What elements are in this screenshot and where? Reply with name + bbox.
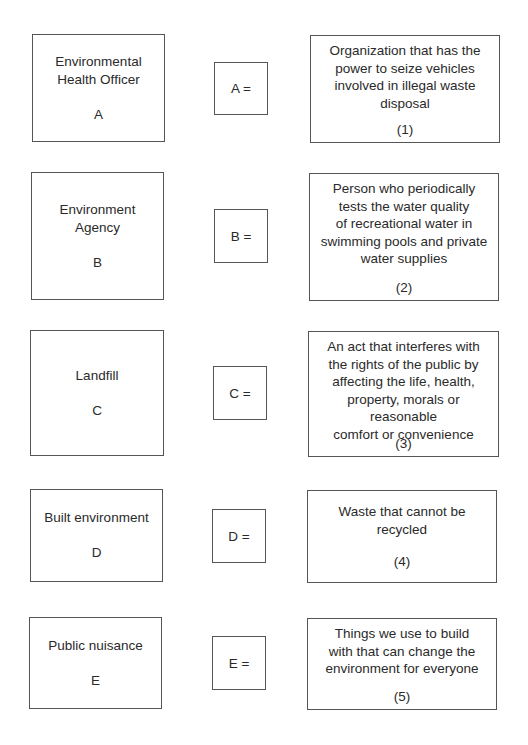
definition-line: An act that interferes with: [313, 338, 494, 356]
term-label: Environmental Health Officer: [55, 53, 141, 89]
term-line: Landfill: [76, 367, 119, 385]
definition-text: An act that interferes with the rights o…: [309, 338, 498, 443]
definition-card-2: Person who periodically tests the water …: [309, 173, 499, 301]
definition-line: disposal: [330, 95, 481, 113]
term-line: Health Officer: [55, 71, 141, 89]
definition-line: with that can change the: [325, 643, 478, 661]
match-label: A =: [231, 81, 251, 96]
match-label: E =: [229, 656, 250, 671]
match-box-d[interactable]: D =: [212, 509, 266, 563]
definition-number: (5): [308, 688, 496, 706]
definition-line: Organization that has the: [330, 42, 481, 60]
definition-card-5: Things we use to build with that can cha…: [307, 618, 497, 710]
definition-card-4: Waste that cannot be recycled (4): [307, 490, 497, 583]
term-line: Environment: [60, 201, 136, 219]
definition-line: Person who periodically: [321, 180, 488, 198]
term-label: Landfill: [76, 367, 119, 385]
definition-text: Person who periodically tests the water …: [317, 180, 492, 268]
definition-line: Waste that cannot be: [338, 503, 465, 521]
term-line: Agency: [60, 219, 136, 237]
match-box-b[interactable]: B =: [214, 209, 268, 263]
definition-line: property, morals or reasonable: [313, 391, 494, 426]
term-label: Built environment: [44, 509, 148, 527]
term-card-c: Landfill C: [30, 330, 164, 456]
definition-number: (3): [309, 435, 498, 453]
match-box-e[interactable]: E =: [212, 636, 266, 690]
definition-text: Things we use to build with that can cha…: [321, 625, 482, 678]
definition-line: involved in illegal waste: [330, 77, 481, 95]
match-label: C =: [229, 386, 250, 401]
definition-line: Things we use to build: [325, 625, 478, 643]
term-letter: E: [91, 672, 100, 690]
term-line: Public nuisance: [48, 637, 143, 655]
definition-line: environment for everyone: [325, 660, 478, 678]
definition-line: the rights of the public by: [313, 356, 494, 374]
definition-line: of recreational water in: [321, 215, 488, 233]
match-label: B =: [231, 229, 252, 244]
term-letter: D: [92, 544, 102, 562]
definition-line: power to seize vehicles: [330, 60, 481, 78]
definition-line: swimming pools and private: [321, 233, 488, 251]
definition-text: Waste that cannot be recycled: [334, 497, 469, 538]
term-line: Environmental: [55, 53, 141, 71]
term-card-b: Environment Agency B: [31, 172, 164, 300]
term-letter: A: [94, 106, 103, 124]
definition-card-3: An act that interferes with the rights o…: [308, 331, 499, 457]
definition-line: tests the water quality: [321, 198, 488, 216]
term-card-d: Built environment D: [30, 489, 163, 582]
match-box-a[interactable]: A =: [214, 62, 268, 115]
term-letter: B: [93, 254, 102, 272]
definition-number: (4): [308, 553, 496, 571]
term-card-a: Environmental Health Officer A: [32, 34, 165, 142]
definition-number: (1): [311, 121, 499, 139]
term-line: Built environment: [44, 509, 148, 527]
term-card-e: Public nuisance E: [29, 617, 162, 709]
definition-card-1: Organization that has the power to seize…: [310, 35, 500, 143]
term-letter: C: [92, 402, 102, 420]
definition-line: affecting the life, health,: [313, 373, 494, 391]
term-label: Public nuisance: [48, 637, 143, 655]
match-label: D =: [228, 529, 249, 544]
match-box-c[interactable]: C =: [213, 366, 267, 420]
definition-text: Organization that has the power to seize…: [326, 42, 485, 112]
term-label: Environment Agency: [60, 201, 136, 237]
definition-line: recycled: [338, 521, 465, 539]
definition-line: water supplies: [321, 250, 488, 268]
definition-number: (2): [310, 279, 498, 297]
